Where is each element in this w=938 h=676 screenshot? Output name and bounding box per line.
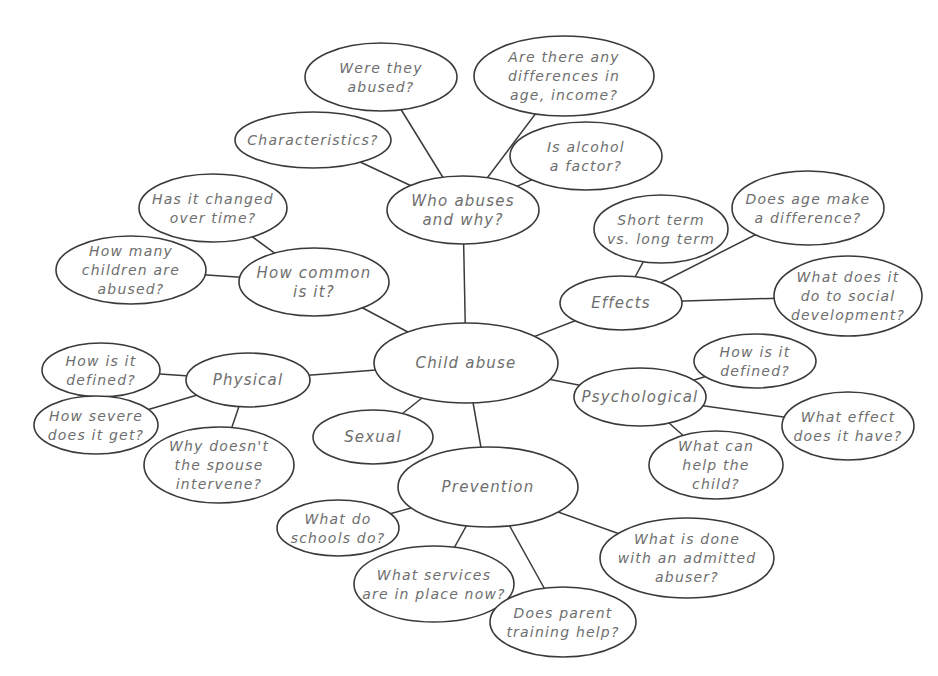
- node-social-development: What does itdo to socialdevelopment?: [774, 256, 922, 336]
- node-label-line: How severe: [49, 408, 143, 424]
- node-label-line: a factor?: [550, 158, 622, 174]
- node-label-line: How is it: [66, 353, 137, 369]
- node-label-line: and why?: [422, 211, 503, 229]
- node-label-line: children are: [82, 262, 180, 278]
- node-differences: Are there anydifferences inage, income?: [474, 36, 654, 116]
- node-label-line: What does it: [797, 269, 900, 285]
- node-label-line: Characteristics?: [247, 132, 378, 148]
- node-prevention: Prevention: [398, 447, 578, 527]
- node-characteristics: Characteristics?: [235, 112, 391, 168]
- node-ellipse: [42, 343, 160, 397]
- mind-map-canvas: Child abuseWho abusesand why?Were theyab…: [0, 0, 938, 676]
- node-ellipse: [732, 171, 884, 245]
- node-physical: Physical: [186, 353, 310, 407]
- node-schools: What doschools do?: [277, 500, 399, 556]
- node-label-line: Is alcohol: [547, 139, 625, 155]
- node-label-line: differences in: [508, 68, 620, 84]
- node-short-long-term: Short termvs. long term: [594, 195, 728, 263]
- node-label-line: Physical: [213, 371, 284, 389]
- node-label-line: What effect: [801, 409, 896, 425]
- node-services: What servicesare in place now?: [354, 546, 514, 622]
- node-label-line: Why doesn't: [169, 438, 269, 454]
- node-label-line: does it get?: [48, 427, 144, 443]
- node-label-line: Effects: [591, 294, 651, 312]
- node-label-line: Does age make: [746, 191, 871, 207]
- node-help-child: What canhelp thechild?: [649, 431, 783, 499]
- nodes-layer: Child abuseWho abusesand why?Were theyab…: [34, 36, 922, 657]
- node-ellipse: [490, 587, 636, 657]
- node-label-line: Does parent: [513, 605, 612, 621]
- node-spouse-intervene: Why doesn'tthe spouseintervene?: [144, 427, 294, 503]
- node-label-line: schools do?: [291, 530, 386, 546]
- node-label-line: do to social: [801, 288, 896, 304]
- node-label-line: age, income?: [510, 87, 618, 103]
- node-psychological: Psychological: [574, 368, 706, 426]
- node-label-line: child?: [692, 476, 740, 492]
- node-label-line: abused?: [98, 281, 165, 297]
- node-ellipse: [782, 392, 914, 460]
- node-label-line: intervene?: [176, 476, 262, 492]
- node-label-line: Are there any: [507, 49, 620, 65]
- node-parent-training: Does parenttraining help?: [490, 587, 636, 657]
- node-label-line: does it have?: [793, 428, 902, 444]
- node-how-common: How commonis it?: [239, 248, 389, 316]
- node-label-line: help the: [682, 457, 749, 473]
- node-changed-over-time: Has it changedover time?: [139, 174, 287, 242]
- node-label-line: How many: [89, 243, 173, 259]
- node-ellipse: [354, 546, 514, 622]
- node-phys-defined: How is itdefined?: [42, 343, 160, 397]
- node-what-effect: What effectdoes it have?: [782, 392, 914, 460]
- node-label-line: abuser?: [655, 569, 719, 585]
- node-who-abuses: Who abusesand why?: [387, 176, 539, 244]
- node-label-line: defined?: [720, 363, 790, 379]
- node-label-line: abused?: [348, 79, 415, 95]
- node-label-line: What can: [678, 438, 754, 454]
- node-label-line: is it?: [293, 283, 335, 301]
- node-ellipse: [510, 122, 662, 190]
- node-label-line: with an admitted: [618, 550, 757, 566]
- node-psych-defined: How is itdefined?: [694, 334, 816, 388]
- node-label-line: Short term: [617, 212, 705, 228]
- node-label-line: defined?: [66, 372, 136, 388]
- node-ellipse: [34, 396, 158, 454]
- node-label-line: a difference?: [755, 210, 862, 226]
- node-label-line: are in place now?: [362, 586, 505, 602]
- node-effects: Effects: [560, 276, 682, 330]
- node-label-line: What services: [377, 567, 491, 583]
- node-label-line: Who abuses: [411, 192, 514, 210]
- node-label-line: vs. long term: [607, 231, 715, 247]
- mind-map-svg: Child abuseWho abusesand why?Were theyab…: [0, 0, 938, 676]
- node-ellipse: [277, 500, 399, 556]
- node-label-line: What is done: [634, 531, 740, 547]
- node-label-line: development?: [791, 307, 905, 323]
- node-were-they-abused: Were theyabused?: [305, 43, 457, 111]
- node-how-severe: How severedoes it get?: [34, 396, 158, 454]
- node-label-line: Psychological: [582, 388, 699, 406]
- node-label-line: training help?: [506, 624, 619, 640]
- node-label-line: How is it: [720, 344, 791, 360]
- node-ellipse: [139, 174, 287, 242]
- node-label-line: the spouse: [175, 457, 264, 473]
- node-label-line: Has it changed: [152, 191, 274, 207]
- node-ellipse: [694, 334, 816, 388]
- node-label-line: Sexual: [344, 428, 402, 446]
- node-child-abuse: Child abuse: [374, 323, 558, 403]
- node-sexual: Sexual: [313, 410, 433, 464]
- node-age-difference: Does age makea difference?: [732, 171, 884, 245]
- node-label-line: Prevention: [442, 478, 535, 496]
- node-label-line: Child abuse: [415, 354, 516, 372]
- node-label-line: over time?: [170, 210, 257, 226]
- node-alcohol: Is alcohola factor?: [510, 122, 662, 190]
- node-label-line: How common: [257, 264, 372, 282]
- node-label-line: What do: [304, 511, 371, 527]
- node-ellipse: [594, 195, 728, 263]
- node-label-line: Were they: [339, 60, 422, 76]
- node-ellipse: [305, 43, 457, 111]
- node-how-many-children: How manychildren areabused?: [56, 236, 206, 304]
- node-admitted-abuser: What is donewith an admittedabuser?: [600, 518, 774, 598]
